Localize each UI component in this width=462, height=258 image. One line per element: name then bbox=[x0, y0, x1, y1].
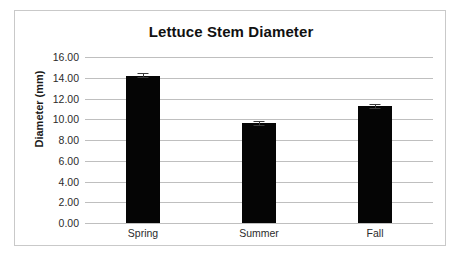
bar bbox=[242, 123, 276, 223]
error-bar bbox=[370, 104, 381, 109]
error-bar-cap-bottom bbox=[254, 125, 265, 126]
bar-group bbox=[317, 57, 433, 223]
x-axis-tick-label: Fall bbox=[367, 227, 384, 239]
x-axis-tick-labels: SpringSummerFall bbox=[85, 227, 433, 247]
y-axis-tick-label: 0.00 bbox=[25, 217, 79, 229]
x-axis-tick-label: Summer bbox=[239, 227, 279, 239]
gridline bbox=[85, 223, 433, 224]
y-axis-tick-label: 12.00 bbox=[25, 93, 79, 105]
error-bar-cap-bottom bbox=[370, 108, 381, 109]
y-axis-tick-label: 8.00 bbox=[25, 134, 79, 146]
y-axis-tick-label: 10.00 bbox=[25, 113, 79, 125]
error-bar-cap-bottom bbox=[138, 77, 149, 78]
bar bbox=[126, 76, 160, 223]
y-axis-tick-label: 6.00 bbox=[25, 155, 79, 167]
error-bar bbox=[138, 73, 149, 78]
y-axis-tick-label: 16.00 bbox=[25, 51, 79, 63]
bar-group bbox=[201, 57, 317, 223]
y-axis-tick-label: 4.00 bbox=[25, 176, 79, 188]
plot-area bbox=[85, 57, 433, 223]
y-axis-tick-label: 2.00 bbox=[25, 196, 79, 208]
y-axis-tick-labels: 16.0014.0012.0010.008.006.004.002.000.00 bbox=[23, 57, 79, 223]
error-bar-cap-top bbox=[254, 121, 265, 122]
error-bar bbox=[254, 121, 265, 126]
y-axis-tick-label: 14.00 bbox=[25, 72, 79, 84]
bar-group bbox=[85, 57, 201, 223]
x-axis-tick-label: Spring bbox=[128, 227, 158, 239]
error-bar-cap-top bbox=[138, 73, 149, 74]
chart-frame: Lettuce Stem Diameter Diameter (mm) 16.0… bbox=[14, 10, 446, 246]
error-bar-cap-top bbox=[370, 104, 381, 105]
chart-title: Lettuce Stem Diameter bbox=[15, 23, 447, 40]
bar bbox=[358, 106, 392, 223]
